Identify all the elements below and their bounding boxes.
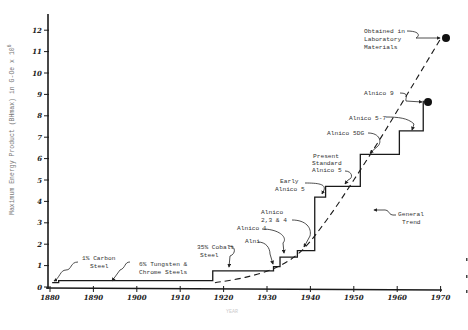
y-tick-label: 6 [37,154,42,163]
y-axis-label: Maximum Energy Product (BHmax) in G-Oe x… [7,44,16,215]
y-tick-label: 9 [37,90,42,99]
y-tick-label: 12 [32,26,42,35]
ann-alnico1: Alnico 1 [237,225,267,232]
x-tick-label: 1960 [387,293,407,302]
x-tick-label: 1930 [257,293,277,302]
axes [46,14,442,290]
y-tick-label: 1 [37,261,42,270]
x-tick-label: 1890 [84,293,104,302]
x-tick-label: 1940 [301,293,321,302]
edge-marks [466,258,468,293]
annotation-labels: 1% CarbonSteel 6% Tungsten &Chrome Steel… [82,28,424,276]
ann-alnico9: Alnico 9 [364,90,394,97]
y-tick-label: 0 [37,283,42,292]
y-tick-label: 5 [37,176,42,185]
y-tick-label: 10 [32,69,42,78]
ann-early-alnico5: EarlyAlnico 5 [275,178,305,193]
y-tick-label: 3 [37,218,42,227]
ann-alnico234: Alnico2,3 & 4 [261,209,287,224]
x-axis-label: YEAR [226,309,238,315]
ann-alnico57: Alnico 5-7 [349,115,386,122]
x-tick-label: 1880 [40,293,60,302]
x-tick-label: 1950 [344,293,364,302]
ann-present-standard: PresentStandardAlnico 5 [312,153,342,174]
y-tick-label: 7 [37,133,42,142]
alnico9-marker [424,98,432,106]
ann-cobalt: 35% CobaltSteel [197,244,234,259]
y-tick-label: 2 [36,240,42,249]
y-tick-label: 11 [32,47,42,56]
x-tick-label: 1920 [214,293,234,302]
x-tick-label: 1910 [170,293,190,302]
ann-general-trend: GeneralTrend [398,211,424,226]
x-axis [46,288,442,290]
x-tick-label: 1970 [431,293,451,302]
ann-alnico5dg: Alnico 5DG [327,130,364,137]
laboratory-marker [442,34,450,42]
x-tick-label: 1900 [127,293,147,302]
y-axis-ticks: 0123456789101112 [32,26,49,292]
y-tick-label: 8 [37,111,42,120]
energy-product-chart: 0123456789101112 18801890190019101920193… [0,0,468,330]
ann-carbon: 1% CarbonSteel [82,255,116,270]
ann-alni: Alni [245,238,260,245]
ann-laboratory: Obtained inLaboratoryMaterials [364,28,405,51]
ann-tungsten: 6% Tungsten &Chrome Steels [139,261,188,276]
y-tick-label: 4 [37,197,42,206]
